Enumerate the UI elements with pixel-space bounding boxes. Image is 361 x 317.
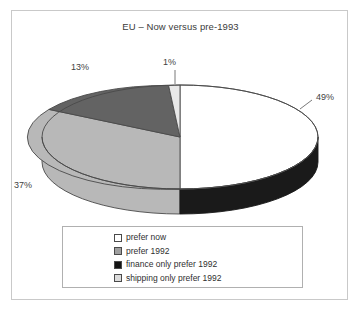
legend-label: shipping only prefer 1992 [126,272,221,286]
legend-label: prefer now [126,231,166,245]
chart-legend: prefer now prefer 1992 finance only pref… [62,226,303,288]
legend-label: finance only prefer 1992 [126,258,217,272]
legend-items: prefer now prefer 1992 finance only pref… [114,231,221,285]
pie-label-prefer-1992: 37% [14,180,32,190]
chart-screenshot: EU – Now versus pre-1993 [0,0,361,317]
legend-swatch-icon [114,261,122,269]
legend-item-finance-only-prefer-1992: finance only prefer 1992 [114,258,221,272]
pie-label-prefer-now: 49% [316,92,334,102]
legend-swatch-icon [114,234,122,242]
legend-item-shipping-only-prefer-1992: shipping only prefer 1992 [114,272,221,286]
legend-swatch-icon [114,247,122,255]
legend-item-prefer-now: prefer now [114,231,221,245]
pie-label-shipping-only-prefer-1992: 1% [163,57,176,67]
pie-label-finance-only-prefer-1992: 13% [71,62,89,72]
legend-swatch-icon [114,274,122,282]
legend-item-prefer-1992: prefer 1992 [114,245,221,259]
leader-line-49 [300,100,312,109]
legend-label: prefer 1992 [126,245,169,259]
